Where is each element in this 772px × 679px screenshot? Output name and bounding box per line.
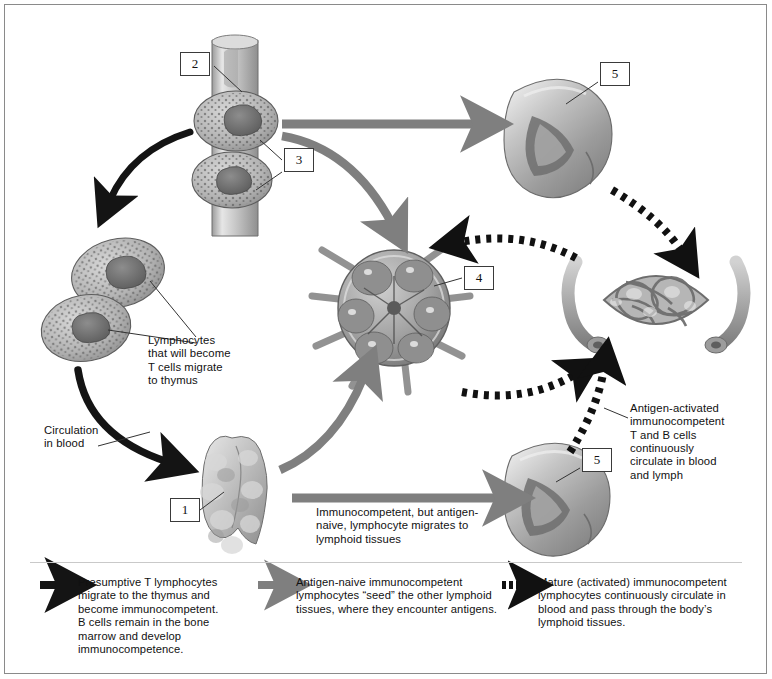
- legend-item-gray-text: Antigen-naive immunocompetent lymphocyte…: [296, 576, 506, 616]
- callout-1[interactable]: 1: [170, 498, 200, 522]
- annotation-antigen-activated: Antigen-activated immunocompetent T and …: [630, 402, 758, 482]
- callout-4[interactable]: 4: [464, 266, 494, 290]
- spleen-upper: [504, 79, 612, 198]
- bone-marrow-cell-upper: [194, 91, 278, 151]
- arrow-dashed-node-to-capillary-lower: [462, 374, 576, 395]
- arrow-dashed-spleen-upper-to-capillary: [612, 190, 682, 252]
- callout-5-bottom[interactable]: 5: [582, 448, 612, 472]
- annotation-immunocompetent-migration: Immunocompetent, but antigen- naive, lym…: [316, 506, 506, 546]
- callout-2[interactable]: 2: [180, 52, 210, 76]
- callout-5-top[interactable]: 5: [600, 62, 630, 86]
- bone-marrow-cell-lower: [192, 152, 272, 208]
- arrow-dashed-node-to-capillary-upper: [460, 238, 576, 258]
- thymus: [200, 436, 267, 554]
- figure-canvas: 2 3 4 5 5 1 Lymphocytes that will become…: [0, 0, 772, 679]
- legend-item-dashed-text: Mature (activated) immunocompetent lymph…: [538, 576, 746, 630]
- annotation-lymphocytes-to-thymus: Lymphocytes that will become T cells mig…: [148, 334, 258, 387]
- arrow-gray-thymus-to-node: [280, 376, 364, 470]
- capillary-bed: [568, 262, 744, 353]
- arrow-dashed-spleen-lower-to-capillary: [570, 368, 604, 452]
- legend-item-black-text: Presumptive T lymphocytes migrate to the…: [78, 576, 243, 657]
- lymph-node: [312, 242, 470, 392]
- legend-divider: [30, 562, 742, 563]
- arrow-black-marrow-to-lymphocytes: [110, 132, 190, 200]
- callout-3[interactable]: 3: [284, 148, 314, 172]
- annotation-circulation-in-blood: Circulation in blood: [44, 424, 130, 451]
